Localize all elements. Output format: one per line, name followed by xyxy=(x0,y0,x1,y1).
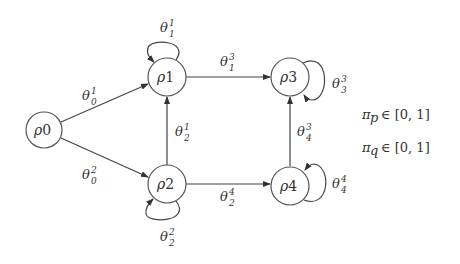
label-theta-4-3: θ 3 4 xyxy=(297,122,312,143)
edge-rho0-rho1 xyxy=(61,84,148,122)
svg-text:θ: θ xyxy=(220,54,228,69)
markov-diagram: ρ0 ρ1 ρ2 ρ3 ρ4 θ 1 0 θ 2 0 θ 1 1 θ 3 1 θ… xyxy=(0,0,460,264)
svg-text:p: p xyxy=(370,110,379,125)
svg-text:θ: θ xyxy=(160,20,168,35)
node-rho1: ρ1 xyxy=(148,58,186,96)
node-rho3: ρ3 xyxy=(271,58,309,96)
svg-text:4: 4 xyxy=(340,174,347,184)
svg-text:θ: θ xyxy=(220,189,228,204)
svg-text:θ: θ xyxy=(332,176,340,191)
svg-text:2: 2 xyxy=(168,227,175,237)
node-rho2: ρ2 xyxy=(148,165,186,203)
svg-text:ρ0: ρ0 xyxy=(33,122,51,138)
svg-text:θ: θ xyxy=(297,124,305,139)
svg-text:4: 4 xyxy=(340,185,347,195)
svg-text:θ: θ xyxy=(332,76,340,91)
svg-text:1: 1 xyxy=(229,63,235,73)
svg-text:q: q xyxy=(370,143,378,158)
label-theta-0-2: θ 2 0 xyxy=(82,165,97,186)
svg-text:θ: θ xyxy=(160,229,168,244)
svg-text:∈ [0, 1]: ∈ [0, 1] xyxy=(381,107,430,122)
svg-text:1: 1 xyxy=(169,18,175,28)
constraint-pi-p: π p ∈ [0, 1] xyxy=(361,107,430,125)
svg-text:ρ4: ρ4 xyxy=(279,178,297,194)
svg-text:θ: θ xyxy=(82,88,90,103)
svg-text:2: 2 xyxy=(183,133,190,143)
label-theta-0-1: θ 1 0 xyxy=(82,86,97,107)
svg-text:1: 1 xyxy=(91,86,97,96)
label-theta-1-3: θ 3 1 xyxy=(220,52,235,73)
svg-text:ρ2: ρ2 xyxy=(156,176,174,192)
label-theta-2-1: θ 1 2 xyxy=(175,122,190,143)
svg-text:ρ3: ρ3 xyxy=(279,69,297,85)
svg-text:θ: θ xyxy=(175,124,183,139)
svg-text:0: 0 xyxy=(91,97,97,107)
svg-text:3: 3 xyxy=(229,52,235,62)
constraint-pi-q: π q ∈ [0, 1] xyxy=(361,140,430,158)
svg-text:4: 4 xyxy=(305,133,312,143)
label-theta-2-2: θ 2 2 xyxy=(160,227,175,248)
svg-text:0: 0 xyxy=(91,176,97,186)
svg-text:ρ1: ρ1 xyxy=(156,69,174,85)
svg-text:2: 2 xyxy=(168,238,175,248)
svg-text:4: 4 xyxy=(228,187,235,197)
label-theta-4-4: θ 4 4 xyxy=(332,174,347,195)
node-rho4: ρ4 xyxy=(271,167,309,205)
label-theta-1-1: θ 1 1 xyxy=(160,18,175,39)
edge-rho0-rho2 xyxy=(61,138,148,177)
svg-text:3: 3 xyxy=(306,122,312,132)
svg-text:2: 2 xyxy=(228,198,235,208)
node-rho0: ρ0 xyxy=(26,112,62,148)
label-theta-3-3: θ 3 3 xyxy=(332,74,347,95)
svg-text:∈ [0, 1]: ∈ [0, 1] xyxy=(381,140,430,155)
svg-text:3: 3 xyxy=(341,74,347,84)
svg-text:1: 1 xyxy=(169,29,175,39)
svg-text:θ: θ xyxy=(82,167,90,182)
svg-text:2: 2 xyxy=(90,165,97,175)
svg-text:3: 3 xyxy=(341,85,347,95)
svg-text:1: 1 xyxy=(184,122,190,132)
label-theta-2-4: θ 4 2 xyxy=(220,187,235,208)
